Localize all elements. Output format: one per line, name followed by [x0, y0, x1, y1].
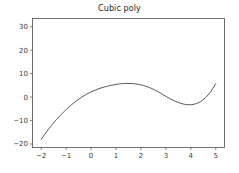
x-tick-label: 4 — [189, 152, 194, 160]
y-tick-label: 30 — [19, 23, 28, 31]
chart-figure: Cubic poly −20−100102030 −2−1012345 — [0, 0, 239, 173]
x-tick-label: 0 — [89, 152, 93, 160]
y-tick-label: −10 — [13, 117, 28, 125]
x-tick-label: 1 — [114, 152, 118, 160]
y-tick-label: −20 — [13, 140, 28, 148]
y-axis-ticks: −20−100102030 — [13, 23, 32, 148]
x-axis-ticks: −2−1012345 — [36, 148, 218, 160]
x-tick-label: 5 — [214, 152, 218, 160]
x-tick-label: −2 — [36, 152, 46, 160]
y-tick-label: 10 — [19, 70, 28, 78]
cubic-poly-curve — [41, 83, 216, 139]
plot-canvas: −20−100102030 −2−1012345 — [0, 0, 239, 173]
x-tick-label: −1 — [61, 152, 71, 160]
x-tick-label: 2 — [139, 152, 143, 160]
x-tick-label: 3 — [164, 152, 168, 160]
y-tick-label: 20 — [19, 47, 28, 55]
axes-frame — [33, 19, 225, 148]
y-tick-label: 0 — [24, 94, 28, 102]
